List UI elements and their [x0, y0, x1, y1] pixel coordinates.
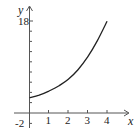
x-tick-label-3: 3	[85, 114, 91, 126]
x-tick-label-1: 1	[46, 114, 52, 126]
x-axis-label: x	[127, 114, 134, 128]
function-curve	[30, 21, 108, 98]
y-ticks	[30, 21, 34, 123]
y-tick-label-neg2: -2	[15, 117, 24, 129]
y-axis-label: y	[17, 3, 24, 17]
x-tick-label-2: 2	[65, 114, 71, 126]
x-tick-label-4: 4	[104, 114, 110, 126]
chart: 18 -2 1 2 3 4 y x	[0, 0, 138, 133]
